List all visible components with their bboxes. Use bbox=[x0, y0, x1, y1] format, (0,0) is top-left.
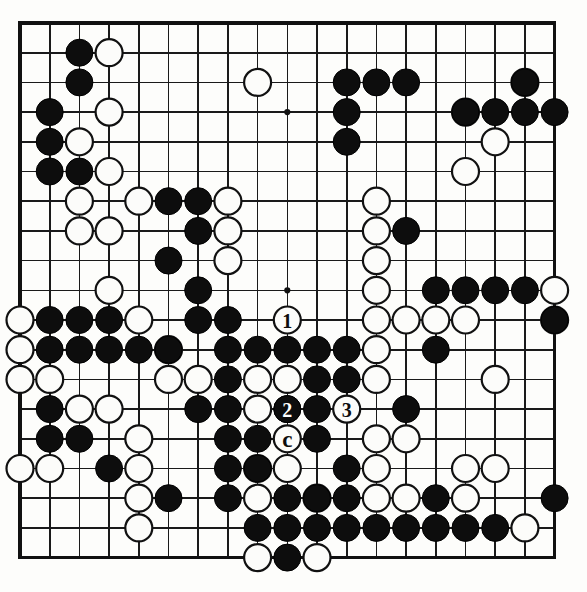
black-stone[interactable] bbox=[333, 366, 360, 393]
black-stone[interactable] bbox=[333, 455, 360, 482]
white-stone[interactable] bbox=[452, 158, 479, 185]
black-stone[interactable] bbox=[393, 217, 420, 244]
white-stone[interactable] bbox=[452, 455, 479, 482]
black-stone[interactable] bbox=[66, 158, 93, 185]
black-stone[interactable] bbox=[36, 425, 63, 452]
white-stone[interactable] bbox=[363, 485, 390, 512]
white-stone[interactable] bbox=[125, 307, 152, 334]
white-stone[interactable] bbox=[125, 485, 152, 512]
black-stone[interactable] bbox=[66, 425, 93, 452]
white-stone[interactable] bbox=[66, 217, 93, 244]
black-stone[interactable] bbox=[244, 425, 271, 452]
black-stone[interactable] bbox=[36, 158, 63, 185]
black-stone[interactable] bbox=[96, 307, 123, 334]
white-stone[interactable] bbox=[482, 455, 509, 482]
black-stone[interactable] bbox=[422, 485, 449, 512]
black-stone[interactable] bbox=[66, 336, 93, 363]
black-stone[interactable] bbox=[96, 455, 123, 482]
white-stone[interactable] bbox=[244, 396, 271, 423]
black-stone[interactable] bbox=[422, 277, 449, 304]
white-stone[interactable] bbox=[482, 366, 509, 393]
white-stone[interactable] bbox=[541, 277, 568, 304]
white-stone[interactable] bbox=[244, 366, 271, 393]
black-stone[interactable] bbox=[541, 485, 568, 512]
white-stone[interactable] bbox=[96, 217, 123, 244]
black-stone[interactable] bbox=[393, 514, 420, 541]
black-stone[interactable] bbox=[333, 336, 360, 363]
black-stone[interactable] bbox=[214, 307, 241, 334]
white-stone[interactable] bbox=[393, 425, 420, 452]
black-stone[interactable] bbox=[511, 99, 538, 126]
black-stone[interactable] bbox=[541, 99, 568, 126]
white-stone[interactable] bbox=[363, 336, 390, 363]
white-stone[interactable] bbox=[363, 425, 390, 452]
white-stone[interactable] bbox=[7, 336, 34, 363]
white-stone[interactable] bbox=[96, 39, 123, 66]
white-stone[interactable] bbox=[125, 188, 152, 215]
black-stone[interactable] bbox=[511, 69, 538, 96]
black-stone[interactable] bbox=[452, 514, 479, 541]
numbered-move-1[interactable]: 1 bbox=[274, 307, 301, 334]
white-stone[interactable] bbox=[244, 544, 271, 571]
white-stone[interactable] bbox=[363, 217, 390, 244]
white-stone[interactable] bbox=[7, 307, 34, 334]
white-stone[interactable] bbox=[214, 247, 241, 274]
black-stone[interactable] bbox=[393, 396, 420, 423]
black-stone[interactable] bbox=[214, 336, 241, 363]
black-stone[interactable] bbox=[304, 514, 331, 541]
black-stone[interactable] bbox=[36, 396, 63, 423]
black-stone[interactable] bbox=[214, 485, 241, 512]
black-stone[interactable] bbox=[304, 485, 331, 512]
white-stone[interactable] bbox=[363, 188, 390, 215]
white-stone[interactable] bbox=[393, 307, 420, 334]
white-stone[interactable] bbox=[363, 247, 390, 274]
white-stone[interactable] bbox=[244, 69, 271, 96]
numbered-move-2[interactable]: 2 bbox=[274, 396, 301, 423]
black-stone[interactable] bbox=[125, 336, 152, 363]
white-stone[interactable] bbox=[511, 514, 538, 541]
black-stone[interactable] bbox=[185, 188, 212, 215]
white-stone[interactable] bbox=[452, 485, 479, 512]
black-stone[interactable] bbox=[422, 514, 449, 541]
white-stone[interactable] bbox=[96, 99, 123, 126]
white-stone[interactable] bbox=[36, 366, 63, 393]
black-stone[interactable] bbox=[244, 455, 271, 482]
black-stone[interactable] bbox=[36, 128, 63, 155]
white-stone[interactable] bbox=[482, 128, 509, 155]
white-stone[interactable] bbox=[66, 128, 93, 155]
white-stone[interactable] bbox=[96, 158, 123, 185]
black-stone[interactable] bbox=[333, 99, 360, 126]
black-stone[interactable] bbox=[96, 336, 123, 363]
white-stone[interactable] bbox=[125, 455, 152, 482]
white-stone[interactable] bbox=[7, 455, 34, 482]
white-stone[interactable] bbox=[363, 455, 390, 482]
black-stone[interactable] bbox=[214, 425, 241, 452]
black-stone[interactable] bbox=[304, 396, 331, 423]
white-stone[interactable] bbox=[244, 485, 271, 512]
white-stone[interactable] bbox=[393, 485, 420, 512]
black-stone[interactable] bbox=[66, 39, 93, 66]
white-stone[interactable] bbox=[7, 366, 34, 393]
black-stone[interactable] bbox=[363, 514, 390, 541]
black-stone[interactable] bbox=[66, 69, 93, 96]
black-stone[interactable] bbox=[452, 99, 479, 126]
black-stone[interactable] bbox=[274, 514, 301, 541]
black-stone[interactable] bbox=[482, 514, 509, 541]
black-stone[interactable] bbox=[185, 277, 212, 304]
go-board-svg[interactable]: 123 abcd bbox=[0, 0, 587, 592]
black-stone[interactable] bbox=[36, 336, 63, 363]
black-stone[interactable] bbox=[393, 69, 420, 96]
white-stone[interactable] bbox=[36, 455, 63, 482]
white-stone[interactable] bbox=[214, 217, 241, 244]
black-stone[interactable] bbox=[155, 188, 182, 215]
white-stone[interactable] bbox=[125, 425, 152, 452]
white-stone[interactable] bbox=[66, 396, 93, 423]
black-stone[interactable] bbox=[244, 514, 271, 541]
black-stone[interactable] bbox=[244, 336, 271, 363]
black-stone[interactable] bbox=[155, 485, 182, 512]
black-stone[interactable] bbox=[511, 277, 538, 304]
black-stone[interactable] bbox=[333, 128, 360, 155]
white-stone[interactable] bbox=[274, 366, 301, 393]
black-stone[interactable] bbox=[422, 336, 449, 363]
numbered-move-3[interactable]: 3 bbox=[333, 396, 360, 423]
